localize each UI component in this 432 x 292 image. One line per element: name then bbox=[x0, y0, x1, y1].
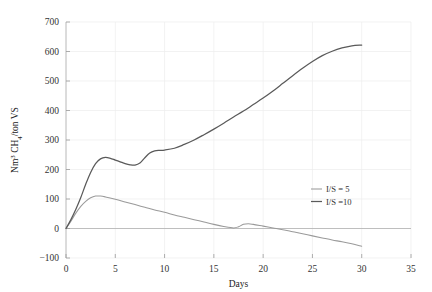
y-tick-label: −100 bbox=[39, 253, 59, 263]
y-tick-label: 100 bbox=[45, 194, 60, 204]
y-tick-label: 200 bbox=[45, 165, 60, 175]
x-axis-title: Days bbox=[229, 279, 249, 289]
y-tick-label: 0 bbox=[54, 224, 59, 234]
x-tick-label: 35 bbox=[406, 264, 416, 274]
line-chart: 05101520253035 −100010020030040050060070… bbox=[0, 0, 432, 292]
x-tick-label: 20 bbox=[258, 264, 268, 274]
y-title-rest: /ton VS bbox=[10, 107, 20, 136]
y-tick-label: 300 bbox=[45, 135, 60, 145]
y-title-nm: Nm bbox=[10, 158, 20, 173]
y-tick-label: 600 bbox=[45, 47, 60, 57]
legend-label-2: I/S =10 bbox=[326, 197, 352, 207]
chart-container: 05101520253035 −100010020030040050060070… bbox=[0, 0, 432, 292]
y-tick-label: 500 bbox=[45, 76, 60, 86]
legend-label-1: I/S = 5 bbox=[326, 184, 349, 194]
chart-background bbox=[0, 0, 432, 292]
x-tick-label: 5 bbox=[113, 264, 118, 274]
x-tick-label: 10 bbox=[160, 264, 170, 274]
x-tick-label: 25 bbox=[308, 264, 318, 274]
y-title-ch: CH bbox=[10, 140, 20, 156]
y-tick-label: 700 bbox=[45, 17, 60, 27]
x-tick-label: 30 bbox=[357, 264, 367, 274]
y-tick-label: 400 bbox=[45, 106, 60, 116]
x-tick-label: 0 bbox=[64, 264, 69, 274]
x-tick-label: 15 bbox=[209, 264, 219, 274]
